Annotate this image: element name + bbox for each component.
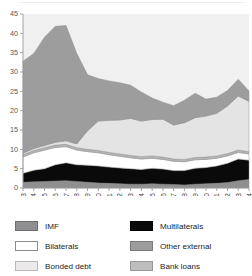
x-axis-tick-label: 1990 [95,193,102,196]
x-axis-tick-label: 1987 [63,193,70,196]
x-axis-tick-label: 1995 [149,193,156,196]
legend-item-bilaterals: Bilaterals [15,241,130,251]
x-axis-tick-label: 1996 [160,193,167,196]
legend-swatch-bonded-debt [15,261,38,271]
x-axis-tick-label: 2002 [224,193,231,196]
legend-swatch-imf [15,221,38,231]
y-axis-tick-label: 30 [10,67,18,76]
legend-label-bilaterals: Bilaterals [45,242,78,251]
legend-item-imf: IMF [15,221,130,231]
legend-swatch-multilaterals [130,221,153,231]
plot-area: 0510152025303540451983198419851986198719… [0,0,252,196]
x-axis-tick-label: 1984 [30,193,37,196]
x-axis-tick-label: 1992 [116,193,123,196]
legend-item-multilaterals: Multilaterals [130,221,252,231]
x-axis-tick-label: 1993 [127,193,134,196]
x-axis-tick-label: 1997 [170,193,177,196]
chart-legend: IMF Multilaterals Bilaterals Other exter… [0,216,252,276]
legend-swatch-bilaterals [15,241,38,251]
legend-item-bonded-debt: Bonded debt [15,261,130,271]
legend-item-bank-loans: Bank loans [130,261,252,271]
legend-swatch-bank-loans [130,261,153,271]
x-axis-tick-label: 1999 [192,193,199,196]
y-axis-tick-label: 40 [10,29,18,38]
x-axis-tick-label: 2001 [213,193,220,196]
legend-label-other-external: Other external [160,242,211,251]
y-axis-tick-label: 10 [10,145,18,154]
x-axis-tick-label: 1983 [20,193,27,196]
legend-label-bonded-debt: Bonded debt [45,262,91,271]
legend-swatch-other-external [130,241,153,251]
x-axis-tick-label: 1994 [138,193,145,196]
x-axis-tick-label: 1991 [106,193,113,196]
legend-label-imf: IMF [45,222,59,231]
y-axis-tick-label: 35 [10,48,18,57]
y-axis-tick-label: 5 [14,164,18,173]
y-axis-tick-label: 0 [14,183,18,192]
x-axis-tick-label: 1985 [41,193,48,196]
plot-svg: 0510152025303540451983198419851986198719… [0,0,252,196]
y-axis-tick-label: 25 [10,87,18,96]
x-axis-tick-label: 1998 [181,193,188,196]
x-axis-tick-label: 1988 [73,193,80,196]
x-axis-tick-label: 2004 [246,193,252,196]
x-axis-tick-label: 2000 [203,193,210,196]
x-axis-tick-label: 1986 [52,193,59,196]
x-axis-tick-label: 1989 [84,193,91,196]
legend-item-other-external: Other external [130,241,252,251]
stacked-area-chart: 0510152025303540451983198419851986198719… [0,0,252,276]
y-axis-tick-label: 20 [10,106,18,115]
legend-label-bank-loans: Bank loans [160,262,200,271]
y-axis-tick-label: 15 [10,125,18,134]
legend-label-multilaterals: Multilaterals [160,222,203,231]
y-axis-tick-label: 45 [10,9,18,18]
x-axis-tick-label: 2003 [235,193,242,196]
